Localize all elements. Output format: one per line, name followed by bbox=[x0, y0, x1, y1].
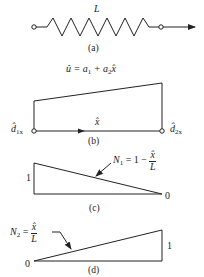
node-1-icon bbox=[32, 129, 36, 133]
n2-equation: N2 = x̂L bbox=[10, 222, 37, 244]
length-label: L bbox=[94, 4, 100, 14]
n1-right-value: 0 bbox=[165, 191, 170, 201]
left-node-icon bbox=[32, 25, 36, 29]
n2-left-value: 0 bbox=[25, 259, 30, 269]
node-2-icon bbox=[160, 129, 164, 133]
right-node-icon bbox=[159, 25, 163, 29]
caption-d: (d) bbox=[88, 266, 99, 276]
n1-leader-arrow-icon bbox=[96, 163, 111, 176]
n2-fraction: x̂L bbox=[31, 222, 37, 244]
caption-a: (a) bbox=[88, 44, 99, 54]
x-hat-axis-label: x̂ bbox=[95, 117, 99, 127]
d1x-label: d̂1x bbox=[11, 124, 23, 136]
axis-direction-arrow-icon bbox=[78, 129, 85, 134]
n2-shape-function-plot bbox=[34, 230, 162, 261]
n1-fraction: x̂L bbox=[149, 150, 155, 172]
n2-leader-arrow-icon bbox=[52, 232, 71, 249]
n2-right-value: 1 bbox=[167, 241, 172, 251]
spring-element bbox=[32, 18, 195, 36]
caption-b: (b) bbox=[88, 137, 99, 147]
d2x-label: d̂2x bbox=[170, 124, 182, 136]
caption-c: (c) bbox=[89, 204, 100, 214]
displacement-equation: û = a1 + a2x̂ bbox=[66, 64, 116, 76]
n1-left-value: 1 bbox=[26, 173, 31, 183]
n1-equation: N1 = 1 − x̂L bbox=[113, 150, 156, 172]
